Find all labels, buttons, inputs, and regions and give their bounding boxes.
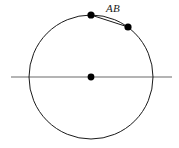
point-center [88, 74, 95, 81]
point-b [124, 23, 131, 30]
point-a [87, 11, 94, 18]
circle-chord-figure: AB [0, 0, 179, 148]
geometry-diagram-svg: AB [0, 0, 179, 148]
chord-label-ab: AB [105, 2, 120, 14]
